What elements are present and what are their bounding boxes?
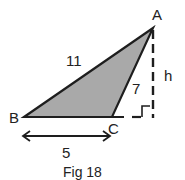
height-label: h (164, 67, 172, 84)
triangle-diagram: A B C 11 7 h 5 Fig 18 (0, 0, 185, 180)
right-angle-marker (142, 106, 150, 117)
side-ab-label: 11 (66, 52, 82, 69)
length-arrow-bc (23, 131, 110, 141)
vertex-a-label: A (152, 6, 162, 23)
vertex-b-label: B (9, 109, 19, 126)
side-bc-label: 5 (62, 144, 70, 161)
figure-caption: Fig 18 (63, 164, 102, 180)
vertex-c-label: C (108, 120, 119, 137)
side-ac-label: 7 (132, 80, 140, 97)
triangle-abc (24, 28, 153, 117)
